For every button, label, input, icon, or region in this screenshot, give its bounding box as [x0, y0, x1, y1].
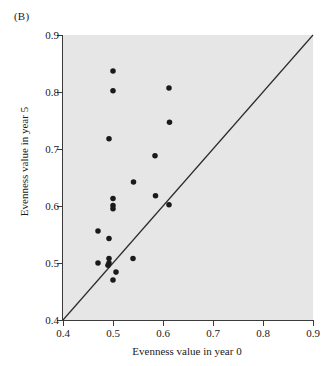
reference-line	[63, 35, 313, 320]
data-point	[110, 196, 116, 202]
y-axis-tick-label: 0.8	[45, 87, 59, 98]
plot-canvas	[63, 35, 313, 320]
x-axis-tick	[313, 320, 314, 326]
x-axis-title: Evenness value in year 0	[62, 345, 312, 358]
x-axis-tick	[213, 320, 214, 326]
scatter-plot-figure: (B) 0.40.50.60.70.80.9 0.40.50.60.70.80.…	[0, 0, 331, 366]
x-axis-tick-label: 0.4	[56, 328, 70, 339]
data-point	[131, 179, 137, 185]
data-point	[106, 136, 112, 142]
data-point	[110, 88, 116, 94]
x-axis-tick	[113, 320, 114, 326]
x-axis-tick-label: 0.5	[106, 328, 120, 339]
x-axis-tick	[263, 320, 264, 326]
data-point	[166, 202, 172, 208]
data-point	[110, 206, 116, 212]
plot-area: 0.40.50.60.70.80.9 0.40.50.60.70.80.9	[62, 35, 313, 321]
y-axis-tick-label: 0.7	[45, 144, 59, 155]
x-axis-tick-label: 0.8	[256, 328, 270, 339]
data-point	[95, 260, 101, 266]
data-point	[153, 193, 159, 199]
data-point	[113, 269, 119, 275]
data-point	[152, 153, 158, 159]
y-axis-tick-label: 0.5	[45, 258, 59, 269]
panel-label: (B)	[14, 10, 29, 23]
data-point	[106, 236, 112, 242]
data-point	[110, 68, 116, 74]
y-axis-title: Evenness value in year 5	[18, 62, 31, 262]
data-point	[95, 228, 101, 234]
x-axis-tick-label: 0.9	[306, 328, 320, 339]
x-axis-tick	[163, 320, 164, 326]
data-point	[166, 85, 172, 91]
one-to-one-reference-line	[63, 35, 313, 320]
y-axis-tick-label: 0.9	[45, 30, 59, 41]
data-point	[167, 119, 173, 125]
data-point	[110, 277, 116, 283]
y-axis-tick-label: 0.6	[45, 201, 59, 212]
data-points-group	[95, 68, 172, 283]
x-axis-tick-label: 0.6	[156, 328, 170, 339]
y-axis-tick-label: 0.4	[45, 315, 59, 326]
data-point	[105, 263, 111, 269]
data-point	[130, 256, 136, 262]
x-axis-tick	[63, 320, 64, 326]
x-axis-tick-label: 0.7	[206, 328, 220, 339]
